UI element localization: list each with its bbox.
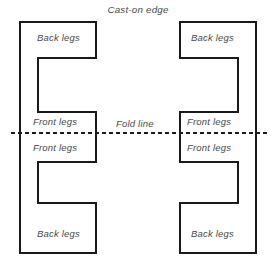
right-piece-outline <box>180 22 256 253</box>
cast-on-edge-title: Cast-on edge <box>0 5 276 15</box>
left-piece-outline <box>20 22 96 253</box>
label-front-legs-top-right: Front legs <box>187 117 231 127</box>
label-front-legs-bottom-right: Front legs <box>187 143 231 153</box>
label-back-legs-bottom-right: Back legs <box>191 229 234 239</box>
label-back-legs-top-right: Back legs <box>191 33 234 43</box>
label-fold-line: Fold line <box>113 119 157 129</box>
label-back-legs-bottom-left: Back legs <box>37 229 80 239</box>
label-front-legs-top-left: Front legs <box>33 117 77 127</box>
label-back-legs-top-left: Back legs <box>37 33 80 43</box>
label-front-legs-bottom-left: Front legs <box>33 143 77 153</box>
pattern-diagram: Cast-on edge Back legs Back legs Front l… <box>0 0 276 261</box>
